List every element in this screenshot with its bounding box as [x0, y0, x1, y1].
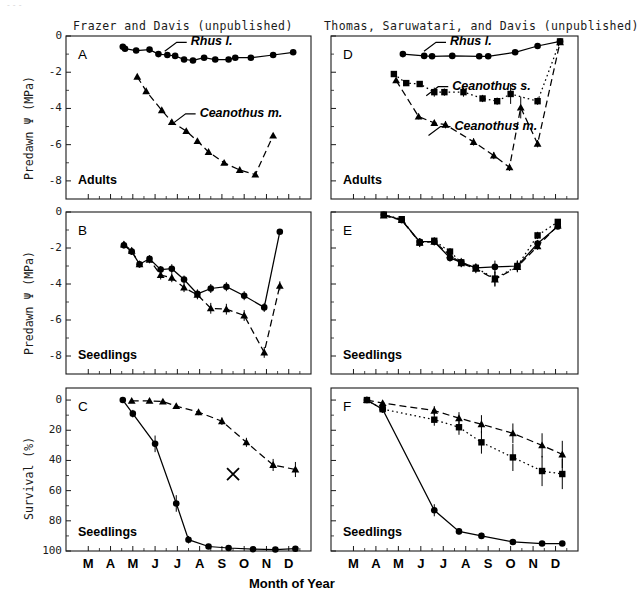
- x-tick-label: M: [345, 556, 361, 571]
- series-line-rhus-l: [124, 232, 280, 308]
- panel-stage-B: Seedlings: [78, 348, 137, 362]
- data-point-circle: [133, 47, 140, 54]
- data-point-square: [416, 81, 422, 87]
- series-line-ceanothus-s: [384, 215, 558, 279]
- series-line-ceanothus-m: [396, 42, 560, 167]
- y-tick-label: 0: [32, 393, 62, 406]
- panel-stage-E: Seedlings: [343, 348, 402, 362]
- x-tick-label: A: [368, 556, 384, 571]
- panel-letter-C: C: [78, 399, 88, 414]
- series-line-rhus-l: [123, 400, 296, 549]
- x-tick-label: S: [480, 556, 496, 571]
- panel-letter-B: B: [78, 223, 87, 238]
- data-point-square: [539, 468, 545, 474]
- x-tick-label: A: [192, 556, 208, 571]
- series-annotation-label: Rhus l.: [450, 34, 492, 48]
- data-point-triangle: [194, 137, 202, 144]
- x-tick-label: D: [548, 556, 564, 571]
- data-point-circle: [205, 543, 212, 550]
- annotation-leader-line: [165, 42, 187, 51]
- y-tick-label: 80: [32, 514, 62, 527]
- x-tick-label: J: [413, 556, 429, 571]
- y-tick-label: -2: [32, 65, 62, 78]
- x-tick-label: A: [103, 556, 119, 571]
- data-point-circle: [172, 53, 179, 60]
- data-point-triangle: [222, 305, 230, 312]
- data-point-square: [403, 80, 409, 86]
- data-point-circle: [181, 56, 188, 63]
- data-point-triangle: [506, 163, 514, 170]
- x-tick-label: J: [169, 556, 185, 571]
- data-point-square: [559, 471, 565, 477]
- annotation-leader-line: [424, 42, 446, 51]
- data-point-circle: [492, 264, 499, 271]
- series-annotation-label: Ceanothus m.: [200, 106, 283, 120]
- panel-letter-D: D: [343, 47, 353, 62]
- y-tick-label: -6: [32, 313, 62, 326]
- data-point-triangle: [558, 451, 566, 458]
- data-point-circle: [223, 283, 230, 290]
- data-point-triangle: [133, 73, 141, 80]
- data-point-square: [441, 89, 447, 95]
- x-tick-label: J: [435, 556, 451, 571]
- series-line-ceanothus-m: [137, 77, 273, 175]
- data-point-circle: [119, 397, 126, 404]
- data-point-square: [478, 439, 484, 445]
- data-point-circle: [212, 56, 219, 63]
- y-axis-title-psi-mid: Predawn Ψ (MPa): [22, 251, 36, 355]
- data-point-circle: [456, 528, 463, 535]
- data-point-square: [534, 232, 540, 238]
- data-point-triangle: [269, 132, 277, 139]
- x-tick-label: N: [258, 556, 274, 571]
- data-point-circle: [152, 441, 159, 448]
- data-point-triangle: [142, 87, 150, 94]
- scan-artifact: ---: [6, 1, 23, 10]
- data-point-triangle: [168, 274, 176, 281]
- data-point-circle: [478, 533, 485, 540]
- data-point-circle: [485, 53, 492, 60]
- data-point-circle: [510, 539, 517, 546]
- data-point-circle: [290, 49, 297, 56]
- column-header-right: Thomas, Saruwatari, and Davis (unpublish…: [324, 19, 639, 33]
- panel-stage-C: Seedlings: [78, 525, 137, 539]
- data-point-circle: [155, 51, 162, 58]
- data-point-circle: [232, 54, 239, 61]
- data-point-circle: [272, 546, 279, 553]
- data-point-circle: [277, 229, 284, 236]
- x-tick-label: M: [125, 556, 141, 571]
- data-point-circle: [168, 265, 175, 272]
- data-point-circle: [270, 52, 277, 59]
- data-point-square: [494, 98, 500, 104]
- data-point-triangle: [470, 138, 478, 145]
- y-tick-label: 0: [32, 205, 62, 218]
- data-point-triangle: [157, 271, 165, 278]
- panel-letter-E: E: [343, 223, 352, 238]
- data-point-triangle: [276, 282, 284, 289]
- y-tick-label: -6: [32, 138, 62, 151]
- y-tick-label: 40: [32, 453, 62, 466]
- data-point-square: [456, 424, 462, 430]
- y-tick-label: -8: [32, 349, 62, 362]
- x-tick-label: A: [458, 556, 474, 571]
- y-tick-label: 100: [32, 544, 62, 557]
- column-header-left: Frazer and Davis (unpublished): [73, 19, 293, 33]
- data-point-triangle: [182, 127, 190, 134]
- data-point-triangle: [534, 140, 542, 147]
- series-annotation-label: Ceanothus m.: [455, 119, 538, 133]
- data-point-circle: [190, 57, 197, 64]
- data-point-circle: [539, 540, 546, 547]
- x-tick-label: M: [80, 556, 96, 571]
- series-line-ceanothus-m: [132, 401, 296, 470]
- data-point-circle: [292, 545, 299, 552]
- data-point-circle: [146, 46, 153, 53]
- data-point-circle: [225, 56, 232, 63]
- series-line-ceanothus-m: [367, 400, 562, 454]
- data-point-circle: [534, 43, 541, 50]
- panel-letter-F: F: [343, 399, 351, 414]
- y-axis-title-survival: Survival (%): [22, 437, 36, 520]
- series-annotation-label: Rhus l.: [191, 34, 233, 48]
- data-point-square: [510, 454, 516, 460]
- data-point-triangle: [220, 159, 228, 166]
- data-point-triangle: [415, 113, 423, 120]
